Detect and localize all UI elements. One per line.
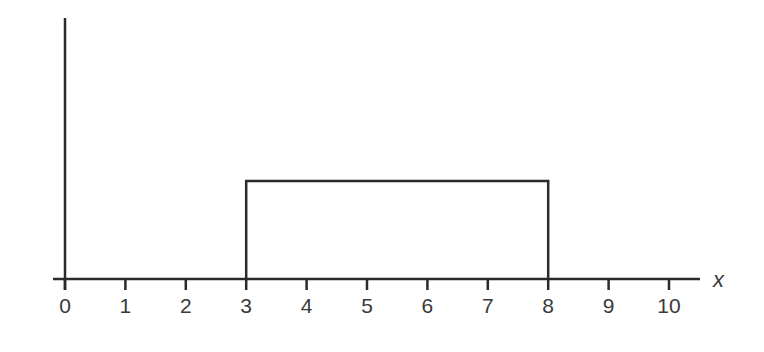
density-rectangle xyxy=(246,181,548,279)
density-outline xyxy=(246,181,548,279)
x-tick-label: 4 xyxy=(301,294,313,317)
uniform-distribution-chart: 012345678910 x xyxy=(0,0,764,352)
x-tick-label: 7 xyxy=(482,294,494,317)
x-tick-label: 6 xyxy=(422,294,434,317)
x-axis-label: x xyxy=(712,267,725,292)
x-tick-label: 2 xyxy=(180,294,192,317)
x-tick-label: 1 xyxy=(120,294,132,317)
x-tick-label: 9 xyxy=(603,294,615,317)
x-tick-label: 0 xyxy=(59,294,71,317)
x-tick-label: 10 xyxy=(657,294,680,317)
x-tick-label: 8 xyxy=(542,294,554,317)
x-tick-label: 5 xyxy=(361,294,373,317)
x-tick-label: 3 xyxy=(240,294,252,317)
x-axis-tick-labels: 012345678910 xyxy=(59,294,681,317)
x-axis-ticks xyxy=(65,279,669,290)
